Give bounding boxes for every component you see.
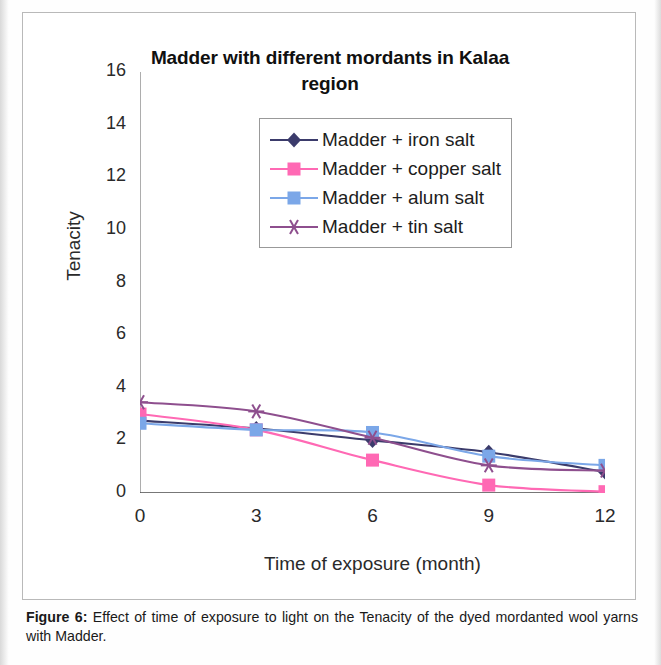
y-tick-label: 16 — [90, 60, 126, 81]
data-point-marker — [599, 485, 606, 493]
legend-item: Madder + copper salt — [268, 154, 501, 183]
x-axis-title: Time of exposure (month) — [140, 553, 605, 575]
y-tick-label: 10 — [90, 218, 126, 239]
legend-label: Madder + alum salt — [320, 187, 484, 209]
legend-swatch-svg — [268, 160, 320, 178]
data-point-marker — [287, 132, 301, 147]
data-point-marker — [288, 162, 301, 175]
y-tick-label: 4 — [90, 376, 126, 397]
legend-label: Madder + copper salt — [320, 158, 501, 180]
x-tick-label: 0 — [117, 505, 163, 527]
y-tick-label: 2 — [90, 428, 126, 449]
data-point-marker — [482, 450, 495, 463]
legend-label: Madder + iron salt — [320, 129, 475, 151]
y-tick-label: 14 — [90, 113, 126, 134]
legend-item: Madder + alum salt — [268, 183, 501, 212]
scan-edge-left — [0, 0, 9, 665]
series-madder-copper-salt — [140, 408, 605, 493]
y-tick-label: 6 — [90, 323, 126, 344]
x-tick-label: 3 — [233, 505, 279, 527]
data-point-marker — [482, 479, 495, 492]
y-axis-title: Tenacity — [63, 166, 85, 326]
y-tick-label: 12 — [90, 165, 126, 186]
chart-legend: Madder + iron saltMadder + copper saltMa… — [259, 118, 512, 248]
data-point-marker — [140, 417, 147, 430]
legend-item: Madder + tin salt — [268, 212, 501, 241]
legend-marker-icon — [268, 218, 320, 236]
legend-swatch-svg — [268, 189, 320, 207]
data-point-marker — [366, 454, 379, 467]
y-tick-label: 8 — [90, 271, 126, 292]
legend-item: Madder + iron salt — [268, 125, 501, 154]
scan-edge-right — [654, 0, 661, 665]
figure-caption: Figure 6: Effect of time of exposure to … — [26, 608, 638, 646]
data-point-marker — [250, 423, 263, 436]
legend-marker-icon — [268, 189, 320, 207]
x-tick-label: 6 — [350, 505, 396, 527]
legend-marker-icon — [268, 131, 320, 149]
legend-marker-icon — [268, 160, 320, 178]
legend-label: Madder + tin salt — [320, 216, 463, 238]
data-point-marker — [288, 191, 301, 204]
figure-container: Madder with different mordants in Kalaa … — [0, 0, 661, 665]
x-tick-label: 9 — [466, 505, 512, 527]
y-tick-label: 0 — [90, 481, 126, 502]
figure-caption-label: Figure 6: — [26, 609, 87, 625]
figure-caption-text: Effect of time of exposure to light on t… — [26, 609, 638, 644]
x-tick-label: 12 — [582, 505, 628, 527]
legend-swatch-svg — [268, 131, 320, 149]
legend-swatch-svg — [268, 218, 320, 236]
